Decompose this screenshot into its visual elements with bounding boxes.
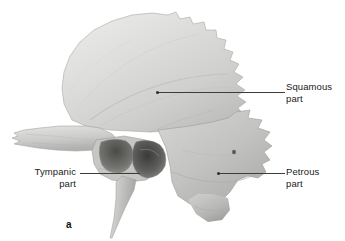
label-squamous-line2: part	[286, 93, 332, 105]
label-squamous-line1: Squamous	[286, 81, 332, 92]
label-tympanic-line1: Tympanic	[35, 166, 76, 177]
label-petrous-line2: part	[286, 178, 319, 190]
figure-caption-letter: a	[66, 219, 72, 230]
label-tympanic-part: Tympanic part	[0, 166, 76, 189]
styloid-process-shape	[110, 176, 136, 238]
anatomy-figure: Squamous part Tympanic part Petrous part…	[0, 0, 345, 241]
leader-line-petrous	[219, 173, 285, 174]
leader-dot-petrous	[217, 172, 220, 175]
temporal-bone-illustration	[0, 0, 345, 241]
mastoid-process-shape	[188, 194, 230, 222]
leader-line-tympanic	[80, 173, 140, 174]
label-petrous-line1: Petrous	[286, 166, 319, 177]
label-squamous-part: Squamous part	[286, 81, 332, 104]
mandibular-fossa-cavity	[99, 139, 133, 173]
leader-dot-squamous	[156, 91, 159, 94]
label-petrous-part: Petrous part	[286, 166, 319, 189]
squamous-part-shape	[62, 12, 246, 132]
label-tympanic-line2: part	[0, 178, 76, 190]
leader-line-squamous	[158, 92, 285, 93]
